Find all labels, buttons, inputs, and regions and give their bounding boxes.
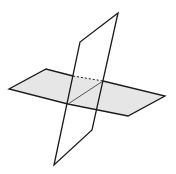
intersecting-planes-diagram xyxy=(0,0,176,174)
